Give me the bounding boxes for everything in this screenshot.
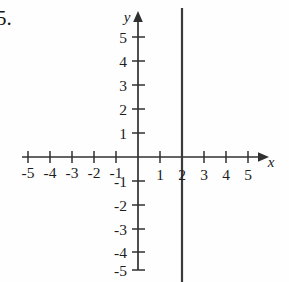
y-tick-label-neg5: -5 xyxy=(114,262,127,279)
y-axis-label: y xyxy=(122,9,131,25)
x-tick-label-neg5: -5 xyxy=(22,164,35,181)
coordinate-plane-graph: y x -5 -4 -3 -2 -1 1 2 3 4 5 5 4 3 2 1 -… xyxy=(0,0,289,282)
y-tick-label-2: 2 xyxy=(119,101,127,118)
x-tick-label-4: 4 xyxy=(222,166,230,183)
y-tick-label-neg1: -1 xyxy=(114,173,127,190)
y-tick-label-neg4: -4 xyxy=(114,244,127,261)
y-axis-arrowhead xyxy=(133,11,143,22)
figure-container: 5. y xyxy=(0,0,289,282)
x-tick-label-3: 3 xyxy=(200,166,208,183)
x-tick-label-2: 2 xyxy=(178,166,186,183)
y-tick-label-5: 5 xyxy=(119,29,127,46)
x-tick-label-neg3: -3 xyxy=(66,164,79,181)
x-tick-label-1: 1 xyxy=(156,166,164,183)
x-axis-label: x xyxy=(267,154,275,170)
y-tick-label-neg2: -2 xyxy=(114,197,127,214)
x-tick-label-5: 5 xyxy=(244,166,252,183)
x-tick-label-neg4: -4 xyxy=(44,164,57,181)
y-tick-label-1: 1 xyxy=(119,125,127,142)
y-tick-label-4: 4 xyxy=(119,53,127,70)
y-tick-label-3: 3 xyxy=(119,77,127,94)
x-tick-label-neg2: -2 xyxy=(88,164,101,181)
y-tick-label-neg3: -3 xyxy=(114,221,127,238)
